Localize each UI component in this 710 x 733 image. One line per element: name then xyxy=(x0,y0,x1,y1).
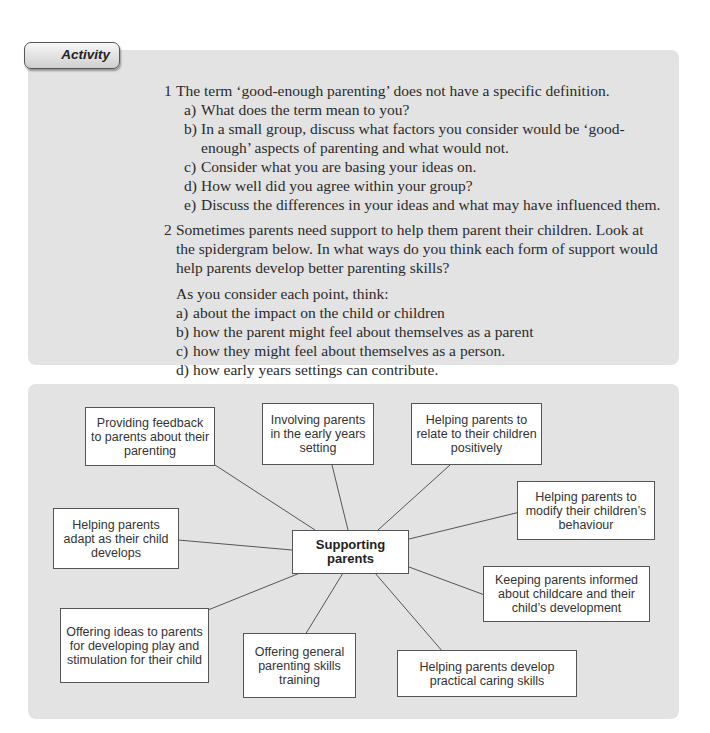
node-modify-behaviour: Helping parents to modify their children… xyxy=(517,481,655,540)
spidergram-center-node: Supporting parents xyxy=(292,530,409,574)
node-keeping-informed: Keeping parents informed about childcare… xyxy=(483,566,650,622)
node-general-skills-training: Offering general parenting skills traini… xyxy=(243,633,356,698)
node-involving-parents: Involving parents in the early years set… xyxy=(262,403,374,465)
node-relate-positively: Helping parents to relate to their child… xyxy=(411,403,542,465)
node-adapt-as-child-develops: Helping parents adapt as their child dev… xyxy=(53,508,179,569)
node-play-and-stimulation: Offering ideas to parents for developing… xyxy=(60,608,209,683)
node-providing-feedback: Providing feedback to parents about thei… xyxy=(85,407,215,466)
node-practical-caring-skills: Helping parents develop practical caring… xyxy=(397,650,577,697)
